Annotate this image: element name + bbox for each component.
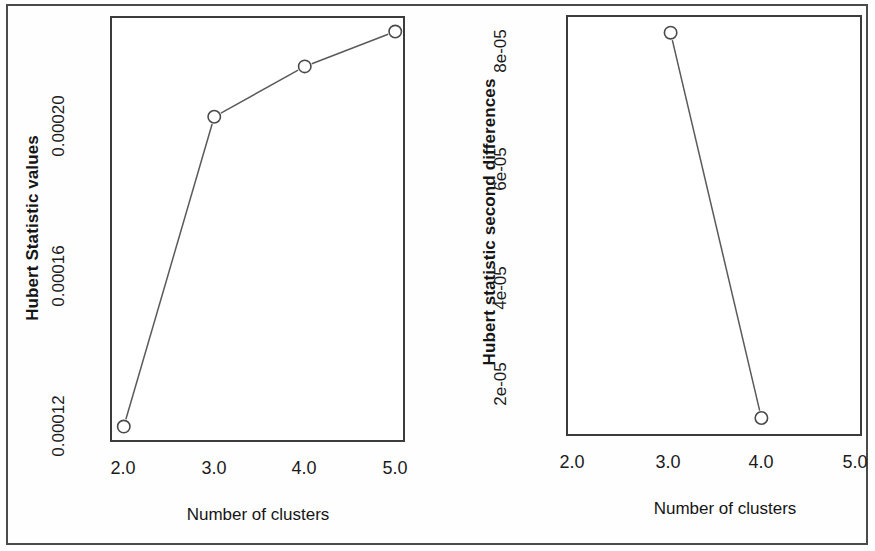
plot-area-left <box>110 16 405 442</box>
data-point-marker <box>755 412 767 424</box>
x-tick-label-right-2: 4.0 <box>731 452 791 473</box>
y-tick-label-left-1: 0.00016 <box>49 228 69 324</box>
data-point-marker <box>299 60 311 72</box>
series-segment <box>312 34 388 63</box>
x-tick-label-right-0: 2.0 <box>542 452 602 473</box>
series-plot-left <box>112 18 407 444</box>
y-tick-label-left-0: 0.00020 <box>49 78 69 174</box>
y-tick-label-right-2: 4e-05 <box>491 248 511 328</box>
data-point-marker <box>118 420 130 432</box>
x-tick-label-left-3: 5.0 <box>365 458 425 479</box>
x-tick-label-left-0: 2.0 <box>93 458 153 479</box>
x-axis-title-left: Number of clusters <box>128 505 388 525</box>
data-point-marker <box>389 25 401 37</box>
chart-panel-right: Hubert statistic second differences 8e-0… <box>440 0 875 551</box>
chart-panel-left: Hubert Statistic values 0.00020 0.00016 … <box>0 0 440 551</box>
series-segment <box>672 40 759 410</box>
data-point-marker <box>664 26 676 38</box>
plot-area-right <box>566 15 862 436</box>
y-tick-label-right-1: 6e-05 <box>491 129 511 209</box>
figure-container: Hubert Statistic values 0.00020 0.00016 … <box>0 0 875 551</box>
y-tick-label-right-0: 8e-05 <box>491 11 511 91</box>
x-tick-label-right-3: 5.0 <box>825 452 875 473</box>
x-tick-label-left-2: 4.0 <box>274 458 334 479</box>
y-tick-label-left-2: 0.00012 <box>49 378 69 474</box>
x-tick-label-left-1: 3.0 <box>184 458 244 479</box>
series-segment <box>126 124 212 419</box>
y-axis-title-left: Hubert Statistic values <box>23 103 43 353</box>
y-tick-label-right-3: 2e-05 <box>491 344 511 424</box>
x-tick-label-right-1: 3.0 <box>638 452 698 473</box>
series-plot-right <box>568 17 864 438</box>
x-axis-title-right: Number of clusters <box>595 499 855 519</box>
series-segment <box>221 70 298 113</box>
data-point-marker <box>208 111 220 123</box>
